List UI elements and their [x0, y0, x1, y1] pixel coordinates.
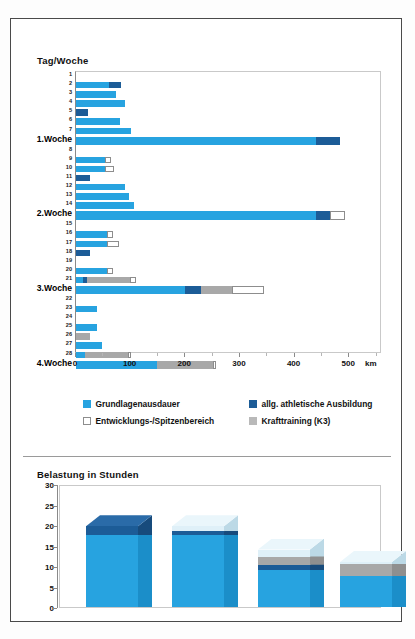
bar-row-day: 15	[76, 221, 380, 230]
legend-label: Grundlagenausdauer	[96, 399, 180, 409]
x-axis-tick-label: 200	[178, 359, 191, 368]
bar-segment-ent	[107, 241, 119, 247]
stacked-bar	[76, 277, 136, 283]
legend-swatch-icon	[249, 400, 257, 408]
bar-row-day: 18	[76, 249, 380, 258]
stacked-bar	[76, 268, 113, 274]
bar-row-day: 9	[76, 156, 380, 165]
bar-segment-ath	[316, 211, 330, 219]
bar-row-label: 1.Woche	[37, 134, 72, 144]
x-axis-tick-label: 500	[342, 359, 355, 368]
legend-row: Grundlagenausdauer allg. athletische Aus…	[83, 399, 393, 416]
bar3d-front-segment	[258, 565, 310, 570]
bar-segment-ath	[316, 137, 340, 145]
x-axis-tick	[75, 353, 76, 357]
bar3d-front-segment	[86, 535, 138, 607]
bar-segment-ath	[76, 250, 90, 256]
bar-row-day: 8	[76, 147, 380, 156]
bar3d-front-segment	[172, 535, 224, 607]
bar-segment-ent	[105, 157, 111, 163]
bar-row-label: 7	[69, 126, 72, 132]
bar3d-4	[340, 484, 406, 607]
y-axis-tick	[53, 526, 57, 527]
bar-segment-gla	[76, 166, 105, 172]
figure-page: Tag/Woche 12345671.Woche8910111213142.Wo…	[0, 0, 415, 639]
y-axis-line	[57, 485, 58, 608]
stacked-bar	[76, 118, 120, 124]
bar-row-label: 8	[69, 146, 72, 152]
bar3d-front-segment	[172, 531, 224, 535]
legend-swatch-icon	[83, 417, 91, 425]
bar-row-day: 1	[76, 72, 380, 81]
stacked-bar	[76, 137, 340, 145]
bar-segment-gla	[76, 306, 97, 312]
x-axis-tick	[294, 353, 295, 357]
bar-row-label: 19	[66, 257, 72, 263]
bottom-chart-title: Belastung in Stunden	[37, 469, 139, 480]
bar-segment-gla	[76, 193, 129, 199]
bar-row-label: 10	[66, 164, 72, 170]
bar-segment-ath	[76, 109, 88, 115]
x-axis-tick	[130, 353, 131, 357]
stacked-bar	[76, 286, 264, 294]
legend-label: allg. athletische Ausbildung	[262, 399, 373, 409]
y-axis-tick	[53, 506, 57, 507]
bar-segment-gla	[76, 268, 107, 274]
bar3d-front-segment	[340, 562, 392, 564]
bar-segment-ath	[76, 175, 90, 181]
legend-label: Krafttraining (K3)	[262, 416, 331, 426]
bar-row-day: 17	[76, 240, 380, 249]
bar-row-label: 28	[66, 350, 72, 356]
bar-row-day: 26	[76, 332, 380, 341]
stacked-bar	[76, 100, 125, 106]
bar3d-front-segment	[258, 570, 310, 607]
top-chart-title: Tag/Woche	[37, 55, 89, 66]
bar3d-front-segment	[340, 576, 392, 607]
legend-item-entwicklungs-spitzenbereich: Entwicklungs-/Spitzenbereich	[83, 416, 214, 426]
x-axis-tick	[239, 353, 240, 357]
bar-segment-gla	[76, 184, 125, 190]
bar-segment-gla	[76, 91, 116, 97]
stacked-bar	[76, 184, 125, 190]
bar-segment-gla	[76, 324, 97, 330]
bar-row-day: 19	[76, 258, 380, 267]
x-axis-minor-tick	[157, 353, 158, 356]
x-axis-tick	[184, 353, 185, 357]
bar-segment-gla	[76, 211, 316, 219]
legend-item-athletische-ausbildung: allg. athletische Ausbildung	[249, 399, 372, 409]
bar-row-day: 3	[76, 90, 380, 99]
bar-segment-ent	[330, 211, 345, 219]
top-chart-plot-area: 12345671.Woche8910111213142.Woche1516171…	[75, 71, 381, 353]
bar3d-3	[258, 484, 324, 607]
legend-item-krafttraining: Krafttraining (K3)	[249, 416, 330, 426]
bar-row-label: 27	[66, 340, 72, 346]
stacked-bar	[76, 333, 90, 339]
legend: Grundlagenausdauer allg. athletische Aus…	[83, 399, 393, 433]
bar-segment-ent	[105, 166, 114, 172]
bar-segment-ent	[107, 231, 113, 237]
bar-row-day: 2	[76, 81, 380, 90]
y-axis-tick	[53, 608, 57, 609]
bar-row-label: 2	[69, 80, 72, 86]
bar-row-label: 6	[69, 116, 72, 122]
x-axis-minor-tick	[212, 353, 213, 356]
stacked-bar	[76, 128, 131, 134]
bar3d-1	[86, 484, 152, 607]
legend-label: Entwicklungs-/Spitzenbereich	[96, 416, 215, 426]
legend-item-grundlagenausdauer: Grundlagenausdauer	[83, 399, 180, 409]
stacked-bar	[76, 211, 345, 219]
panel-divider	[23, 456, 391, 457]
bar-row-day: 5	[76, 108, 380, 117]
bar3d-side-segment	[224, 524, 238, 607]
bar3d-side-segment	[138, 524, 152, 607]
bar-row-day: 27	[76, 341, 380, 350]
bar-rows: 12345671.Woche8910111213142.Woche1516171…	[76, 72, 380, 352]
bar-row-day: 14	[76, 201, 380, 210]
stacked-bar	[76, 175, 90, 181]
y-axis-tick	[53, 588, 57, 589]
bar-row-label: 3	[69, 89, 72, 95]
bar-row-label: 12	[66, 182, 72, 188]
bar-segment-gla	[76, 100, 125, 106]
stacked-bar	[76, 91, 116, 97]
x-axis-minor-tick	[321, 353, 322, 356]
